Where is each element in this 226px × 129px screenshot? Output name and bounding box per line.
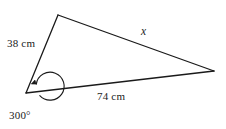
- angle-label-300-degrees: 300°: [9, 110, 31, 121]
- side-label-74cm: 74 cm: [97, 91, 125, 102]
- triangle-side-38cm: [26, 15, 58, 93]
- triangle-diagram-svg: [0, 0, 226, 129]
- side-label-x: x: [141, 26, 146, 38]
- side-label-38cm: 38 cm: [7, 38, 35, 49]
- geometry-figure: 38 cm 74 cm x 300°: [0, 0, 226, 129]
- reflex-angle-arc: [36, 72, 64, 100]
- triangle-side-x: [58, 15, 214, 71]
- angle-arc-arrowhead: [31, 80, 36, 84]
